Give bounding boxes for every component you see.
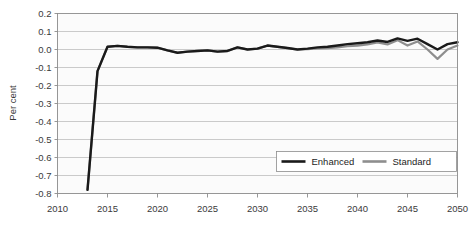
y-tick-label: -0.7 bbox=[35, 170, 51, 181]
x-tick-label: 2025 bbox=[197, 203, 218, 214]
y-tick-label: -0.6 bbox=[35, 152, 51, 163]
y-tick-label: -0.8 bbox=[35, 188, 51, 199]
x-tick-label: 2015 bbox=[97, 203, 118, 214]
x-tick-label: 2010 bbox=[47, 203, 68, 214]
y-tick-label: -0.2 bbox=[35, 80, 51, 91]
y-tick-label: -0.3 bbox=[35, 98, 51, 109]
y-tick-label: -0.5 bbox=[35, 134, 51, 145]
y-tick-label: -0.4 bbox=[35, 116, 51, 127]
y-tick-label: -0.1 bbox=[35, 62, 51, 73]
x-tick-label: 2035 bbox=[297, 203, 318, 214]
x-tick-label: 2040 bbox=[347, 203, 368, 214]
line-chart: 0.20.10.0-0.1-0.2-0.3-0.4-0.5-0.6-0.7-0.… bbox=[0, 0, 475, 232]
y-tick-label: 0.1 bbox=[38, 26, 51, 37]
y-tick-label: 0.0 bbox=[38, 44, 51, 55]
y-tick-label: 0.2 bbox=[38, 8, 51, 19]
x-tick-label: 2030 bbox=[247, 203, 268, 214]
x-tick-label: 2045 bbox=[397, 203, 418, 214]
legend-label-standard: Standard bbox=[393, 156, 432, 167]
x-axis-tickmarks bbox=[58, 194, 458, 198]
chart-container: 0.20.10.0-0.1-0.2-0.3-0.4-0.5-0.6-0.7-0.… bbox=[0, 0, 475, 232]
chart-legend: EnhancedStandard bbox=[277, 152, 457, 172]
legend-label-enhanced: Enhanced bbox=[312, 156, 355, 167]
x-tick-label: 2050 bbox=[447, 203, 468, 214]
x-axis-tick-labels: 201020152020202520302035204020452050 bbox=[47, 203, 468, 214]
x-tick-label: 2020 bbox=[147, 203, 168, 214]
y-axis-title: Per cent bbox=[7, 85, 18, 121]
y-axis-tick-labels: 0.20.10.0-0.1-0.2-0.3-0.4-0.5-0.6-0.7-0.… bbox=[35, 8, 51, 199]
